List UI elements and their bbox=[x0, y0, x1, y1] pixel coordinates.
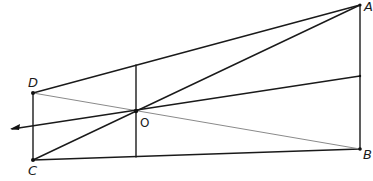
point-ab-mid bbox=[359, 75, 361, 77]
point-a bbox=[358, 3, 361, 6]
arrowhead-left-icon bbox=[10, 124, 20, 130]
point-d bbox=[31, 91, 35, 95]
point-c bbox=[31, 158, 35, 162]
label-o: O bbox=[140, 117, 149, 129]
label-d: D bbox=[28, 76, 38, 89]
point-o bbox=[134, 109, 138, 113]
diagonal-ca bbox=[33, 5, 360, 160]
segment-cb bbox=[33, 149, 360, 160]
segment-da bbox=[33, 5, 360, 93]
point-b bbox=[358, 147, 362, 151]
label-c: C bbox=[28, 164, 37, 177]
label-b: B bbox=[363, 148, 372, 161]
label-a: A bbox=[364, 0, 373, 13]
